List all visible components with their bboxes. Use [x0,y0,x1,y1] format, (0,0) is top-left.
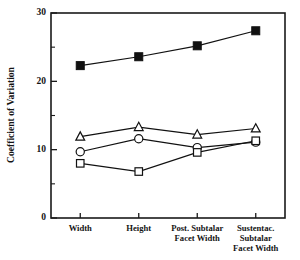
plot-frame [51,13,285,218]
x-tick-label: Sustentac.SubtalarFacet Width [233,223,278,253]
data-point-open-square [194,149,202,157]
data-point-filled-square [252,27,260,35]
x-tick-label: Post. SubtalarFacet Width [171,223,223,243]
coefficient-of-variation-line-chart: 0102030 WidthHeightPost. SubtalarFacet W… [0,0,300,260]
plot-area-border [51,13,285,218]
y-tick-label: 0 [41,212,46,222]
y-axis-title: Coefficient of Variation [5,66,16,163]
data-point-filled-square [135,53,143,61]
y-axis-tick-labels: 0102030 [37,7,47,222]
y-tick-label: 30 [37,7,47,17]
x-axis-tick-labels: WidthHeightPost. SubtalarFacet WidthSust… [69,223,279,253]
x-tick-label: Width [69,223,92,233]
chart-page: 0102030 WidthHeightPost. SubtalarFacet W… [0,0,300,260]
y-tick-label: 10 [37,144,47,154]
y-tick-label: 20 [37,76,47,86]
data-point-open-square [77,160,85,168]
x-tick-label: Height [126,223,151,233]
data-point-open-circle [76,148,84,156]
data-point-open-square [135,168,143,176]
data-point-open-circle [135,135,143,143]
data-point-open-square [252,137,260,145]
data-point-filled-square [193,42,201,50]
data-point-filled-square [76,62,84,70]
